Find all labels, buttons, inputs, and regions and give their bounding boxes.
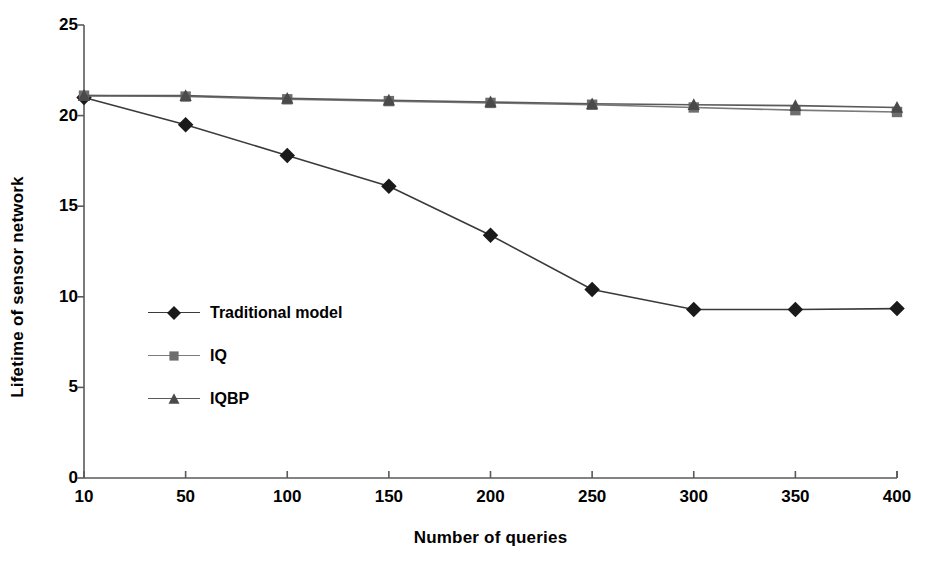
marker-diamond: [178, 117, 194, 133]
marker-square: [169, 351, 178, 360]
legend-label: IQBP: [210, 390, 249, 408]
data-series: [76, 89, 905, 317]
x-axis-title: Number of queries: [84, 528, 897, 548]
legend-item: Traditional model: [148, 291, 342, 334]
line-chart: Lifetime of sensor network 0510152025 10…: [0, 0, 950, 574]
marker-diamond: [686, 302, 702, 318]
series-line: [84, 97, 897, 309]
legend-square-icon: [148, 346, 200, 366]
legend-diamond-icon: [148, 303, 200, 323]
legend-label: IQ: [210, 347, 227, 365]
marker-diamond: [889, 301, 905, 317]
legend: Traditional modelIQIQBP: [148, 291, 342, 420]
legend-triangle-icon: [148, 389, 200, 409]
legend-item: IQBP: [148, 377, 342, 420]
plot-area: [0, 0, 950, 574]
marker-diamond: [483, 227, 499, 243]
marker-diamond: [788, 302, 804, 318]
legend-label: Traditional model: [210, 304, 342, 322]
legend-item: IQ: [148, 334, 342, 377]
marker-diamond: [381, 179, 397, 195]
marker-triangle: [169, 393, 180, 404]
marker-diamond: [584, 282, 600, 298]
marker-diamond: [280, 148, 296, 164]
series-traditional-model: [76, 90, 905, 318]
marker-diamond: [167, 306, 181, 320]
